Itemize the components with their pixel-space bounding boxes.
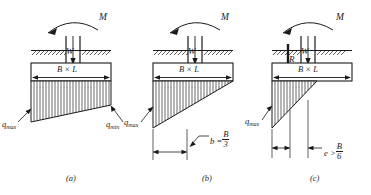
b-fraction: B3 (222, 130, 229, 148)
moment-label-b: M (221, 13, 229, 23)
b-dimension-b (153, 129, 188, 160)
load-label-a: W (66, 47, 74, 56)
qmax-leader-b (141, 107, 154, 123)
load-label-c: W (301, 47, 309, 56)
qmin-subscript-a: min (110, 124, 119, 130)
e-dimension-label-c: e >B6 (324, 142, 343, 160)
ground-hatch-left-a (32, 51, 66, 55)
qmax-subscript-b: max (128, 122, 138, 128)
panel-caption-b: (b) (202, 173, 212, 183)
moment-arc-b (170, 23, 220, 35)
b-fraction-denominator: 3 (222, 140, 229, 149)
moment-arc-c (283, 23, 333, 35)
e-greater-text: e > (324, 149, 336, 158)
foundation-pressure-diagram (0, 0, 371, 195)
ground-hatch-right-c (317, 51, 345, 55)
pressure-triangle-c (272, 81, 317, 128)
qmin-label-a: qmin (106, 120, 119, 129)
moment-label-a: M (99, 13, 107, 23)
e-fraction: B6 (336, 142, 343, 160)
ground-hatch-right-a (82, 51, 110, 55)
qmax-label-a: qmax (2, 120, 16, 129)
b-dimension-label-b: b =B3 (210, 130, 229, 148)
panel-c (262, 23, 352, 158)
footing-label-b: B × L (179, 65, 199, 74)
footing-label-c: B × L (298, 65, 318, 74)
moment-label-c: M (336, 13, 344, 23)
ground-hatch-right-b (204, 51, 232, 55)
e-fraction-denominator: 6 (336, 152, 343, 161)
resultant-label-c: R (289, 55, 295, 64)
qmax-leader-a (18, 109, 32, 123)
panel-caption-c: (c) (310, 173, 319, 183)
b-equals-text: b = (210, 137, 222, 146)
panel-caption-a: (a) (66, 173, 76, 183)
moment-arc-a (48, 23, 98, 35)
qmax-leader-c (262, 106, 273, 121)
qmax-subscript-a: max (6, 124, 16, 130)
qmax-subscript-c: max (249, 121, 259, 127)
load-label-b: W (188, 47, 196, 56)
qmax-label-c: qmax (245, 117, 259, 126)
qmax-label-b: qmax (124, 118, 138, 127)
ground-hatch-left-b (154, 51, 188, 55)
footing-label-a: B × L (57, 65, 77, 74)
b-dimension-leader-b (190, 136, 210, 147)
